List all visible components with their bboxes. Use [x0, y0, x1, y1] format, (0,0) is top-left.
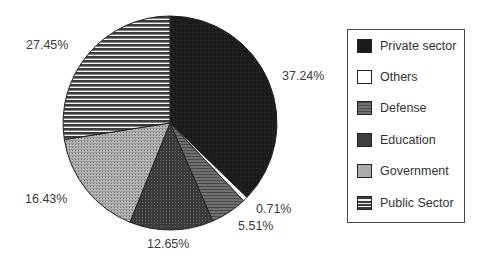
legend-item-government: Government: [357, 161, 449, 181]
label-others: 0.71%: [256, 202, 291, 216]
legend-item-public-sector: Public Sector: [357, 193, 454, 213]
label-public-sector: 27.45%: [26, 38, 68, 52]
swatch-others-icon: [357, 70, 372, 84]
legend-item-defense: Defense: [357, 98, 427, 118]
legend: Private sector Others Defense Education …: [347, 29, 465, 223]
swatch-government-icon: [357, 164, 372, 178]
slice-public-sector: [63, 16, 170, 140]
swatch-education-icon: [357, 133, 372, 147]
legend-item-private-sector: Private sector: [357, 36, 456, 56]
swatch-defense-icon: [357, 101, 372, 115]
label-defense: 5.51%: [238, 219, 273, 233]
legend-item-others: Others: [357, 67, 418, 87]
swatch-public-sector-icon: [357, 196, 372, 210]
swatch-private-sector-icon: [357, 39, 372, 53]
legend-item-education: Education: [357, 130, 436, 150]
label-government: 16.43%: [25, 192, 67, 206]
label-education: 12.65%: [147, 237, 189, 251]
label-private-sector: 37.24%: [282, 69, 324, 83]
